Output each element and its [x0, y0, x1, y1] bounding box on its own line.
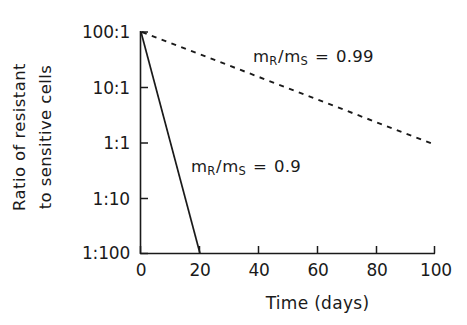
annotation-upper-equals: = — [315, 47, 329, 66]
annotation-upper-sub-r: R — [269, 54, 277, 68]
x-axis-ticks — [141, 246, 435, 254]
y-tick-label-100-1: 100:1 — [60, 24, 130, 41]
y-axis-title: Ratio of resistant to sensitive cells — [2, 12, 66, 270]
x-axis-title: Time (days) — [0, 293, 467, 313]
annotation-lower-equals: = — [253, 157, 267, 176]
x-tick-label-40: 40 — [248, 262, 269, 279]
y-tick-label-1-10: 1:10 — [60, 191, 130, 208]
chart-figure: 100:1 10:1 1:1 1:10 1:100 0 20 40 60 80 … — [0, 0, 467, 325]
y-axis-ticks — [141, 32, 149, 254]
x-tick-label-60: 60 — [307, 262, 328, 279]
x-tick-label-0: 0 — [136, 262, 147, 279]
x-tick-label-80: 80 — [366, 262, 387, 279]
y-axis-title-line-1: Ratio of resistant — [12, 63, 29, 211]
annotation-lower-sub-r: R — [207, 164, 215, 178]
annotation-lower-sub-s: S — [239, 164, 247, 178]
x-tick-label-20: 20 — [189, 262, 210, 279]
annotation-upper-m1: m — [253, 47, 269, 66]
annotation-ratio-0-99: mR/mS=0.99 — [253, 49, 374, 66]
y-tick-label-1-100: 1:100 — [60, 245, 130, 262]
annotation-upper-m2: m — [284, 47, 300, 66]
annotation-lower-m1: m — [191, 157, 207, 176]
series-line-ratio-0-9 — [141, 32, 200, 254]
x-tick-label-100: 100 — [420, 262, 452, 279]
y-tick-label-1-1: 1:1 — [60, 135, 130, 152]
annotation-upper-sub-s: S — [301, 54, 309, 68]
annotation-ratio-0-9: mR/mS=0.9 — [191, 159, 301, 176]
y-axis-title-line-2: to sensitive cells — [38, 65, 55, 210]
annotation-lower-m2: m — [222, 157, 238, 176]
annotation-upper-value: 0.99 — [336, 47, 374, 66]
y-tick-label-10-1: 10:1 — [60, 80, 130, 97]
annotation-lower-value: 0.9 — [274, 157, 301, 176]
